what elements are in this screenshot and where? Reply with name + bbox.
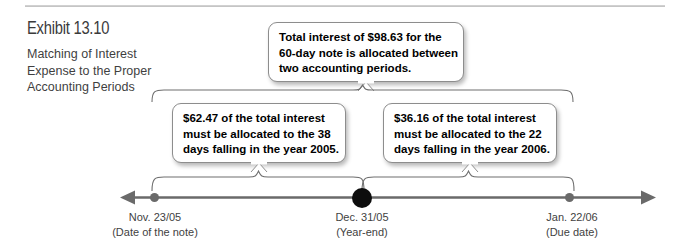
- timeline-label-year-end: Dec. 31/05 (Year-end): [292, 210, 432, 239]
- timeline-label-year-end-date: Dec. 31/05: [292, 210, 432, 225]
- exhibit-number-title: Exhibit 13.10: [27, 18, 109, 39]
- callout-2006-allocation: $36.16 of the total interest must be all…: [383, 103, 557, 163]
- timeline-marker-year-end: [352, 188, 372, 208]
- callout-2005-allocation-line-1: $62.47 of the total interest: [183, 111, 336, 127]
- timeline-label-note-date-date: Nov. 23/05: [85, 210, 225, 225]
- top-divider-rule: [25, 5, 665, 7]
- timeline-label-due-date-date: Jan. 22/06: [502, 210, 642, 225]
- callout-total-interest: Total interest of $98.63 for the 60-day …: [268, 22, 464, 82]
- exhibit-figure: Exhibit 13.10 Matching of Interest Expen…: [0, 0, 689, 250]
- callout-total-interest-line-2: 60-day note is allocated between: [279, 46, 454, 62]
- callout-2005-allocation-line-3: days falling in the year 2005.: [183, 142, 336, 158]
- timeline-label-due-date-note: (Due date): [502, 225, 642, 240]
- timeline-marker-due-date: [565, 193, 574, 202]
- timeline-marker-note-date: [150, 193, 159, 202]
- exhibit-subtitle-line-2: Expense to the Proper: [27, 63, 177, 80]
- callout-total-interest-line-1: Total interest of $98.63 for the: [279, 30, 454, 46]
- timeline-label-note-date: Nov. 23/05 (Date of the note): [85, 210, 225, 239]
- brace-split-periods: [150, 84, 575, 103]
- callout-2006-allocation-line-2: must be allocated to the 22: [394, 127, 547, 143]
- callout-2005-allocation: $62.47 of the total interest must be all…: [172, 103, 346, 163]
- exhibit-subtitle-line-1: Matching of Interest: [27, 46, 177, 63]
- timeline-axis: [118, 185, 658, 211]
- callout-total-interest-line-3: two accounting periods.: [279, 61, 454, 77]
- callout-2006-allocation-line-1: $36.16 of the total interest: [394, 111, 547, 127]
- timeline-label-year-end-note: (Year-end): [292, 225, 432, 240]
- timeline-label-note-date-note: (Date of the note): [85, 225, 225, 240]
- callout-2006-allocation-line-3: days falling in the year 2006.: [394, 142, 547, 158]
- timeline-label-due-date: Jan. 22/06 (Due date): [502, 210, 642, 239]
- callout-2005-allocation-line-2: must be allocated to the 38: [183, 127, 336, 143]
